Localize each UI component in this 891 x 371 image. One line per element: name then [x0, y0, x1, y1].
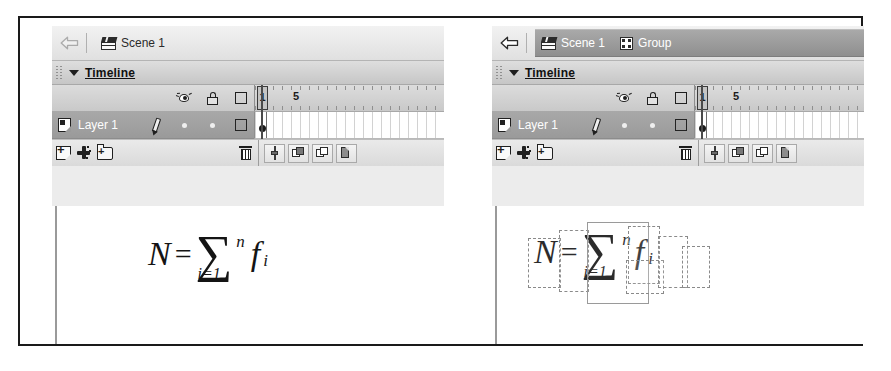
page-icon — [58, 118, 71, 132]
new-folder-icon[interactable] — [537, 147, 553, 160]
formula-left[interactable]: N = ∑ n i=1 f i — [148, 234, 268, 275]
formula-sigma-upper: n — [236, 232, 245, 252]
formula-sigma: ∑ n i=1 — [196, 234, 233, 275]
ruler-label-1: 1 — [258, 87, 267, 108]
playhead-marker[interactable]: 1 — [697, 86, 708, 110]
onion-skin-outlines-icon[interactable] — [312, 144, 333, 163]
playhead-marker[interactable]: 1 — [257, 86, 268, 110]
frame-ruler-right[interactable]: 1 5 — [694, 85, 864, 112]
onion-tools-right — [698, 140, 864, 166]
group-icon — [620, 37, 633, 50]
onion-skin-icon[interactable] — [728, 144, 749, 163]
selection-box-f — [658, 236, 688, 288]
timeline-footer-left — [52, 139, 444, 166]
layer-visible-dot[interactable] — [616, 123, 633, 128]
back-arrow-icon[interactable] — [492, 26, 526, 60]
layer-name-label[interactable]: Layer 1 — [518, 118, 588, 132]
frames-column-right: 1 5 — [694, 85, 864, 139]
layer-outline-swatch[interactable] — [672, 119, 689, 131]
timeline-title-label: Timeline — [85, 66, 135, 80]
center-frame-icon[interactable] — [704, 144, 725, 163]
frames-strip-right[interactable] — [694, 112, 864, 139]
motion-guide-icon[interactable] — [77, 146, 91, 160]
breadcrumb-divider — [526, 33, 527, 53]
lock-icon[interactable] — [644, 92, 661, 105]
stage-left-edge — [55, 206, 57, 344]
layer-column-right: Layer 1 — [492, 85, 694, 139]
formula-sigma-lower: i=1 — [198, 265, 221, 283]
eye-icon[interactable] — [616, 93, 633, 103]
drag-grip-icon[interactable] — [495, 66, 504, 79]
page-icon — [498, 118, 511, 132]
lock-icon[interactable] — [204, 92, 221, 105]
layer-area-right: Layer 1 1 5 — [492, 85, 864, 139]
stage-right[interactable]: N = ∑ n i=1 f i — [492, 206, 864, 344]
frame-ruler-left[interactable]: 1 5 — [254, 85, 444, 112]
layer-lock-dot[interactable] — [644, 123, 661, 128]
layer-lock-dot[interactable] — [204, 123, 221, 128]
breadcrumb-item-group[interactable]: Group — [614, 30, 680, 56]
timeline-title-bar-right[interactable]: Timeline — [492, 61, 864, 85]
triangle-down-icon[interactable] — [509, 70, 519, 76]
trash-icon[interactable] — [679, 146, 692, 160]
edit-multiple-frames-icon[interactable] — [336, 144, 357, 163]
clapperboard-icon — [541, 37, 556, 50]
layer-tools-right — [492, 140, 698, 166]
formula-f: f — [251, 235, 260, 273]
breadcrumb-divider — [86, 33, 87, 53]
frames-strip-left[interactable] — [254, 112, 444, 139]
onion-skin-outlines-icon[interactable] — [752, 144, 773, 163]
breadcrumb-bar-right: Scene 1 Group — [492, 26, 864, 61]
layer-tools-left — [52, 140, 258, 166]
center-frame-icon[interactable] — [264, 144, 285, 163]
layer-column-left: Layer 1 — [52, 85, 254, 139]
breadcrumb-list-left: Scene 1 — [95, 30, 444, 56]
drag-grip-icon[interactable] — [55, 66, 64, 79]
timeline-footer-right — [492, 139, 864, 166]
square-outline-icon[interactable] — [672, 92, 689, 104]
onion-skin-icon[interactable] — [288, 144, 309, 163]
layer-row-icons — [148, 118, 254, 132]
trash-icon[interactable] — [239, 146, 252, 160]
timeline-title-bar-left[interactable]: Timeline — [52, 61, 444, 85]
selection-box-f-subscript — [682, 246, 710, 288]
breadcrumb-bar-left: Scene 1 — [52, 26, 444, 61]
new-layer-icon[interactable] — [496, 146, 511, 160]
eye-icon[interactable] — [176, 93, 193, 103]
layer-row[interactable]: Layer 1 — [52, 112, 254, 139]
clapperboard-icon — [101, 37, 116, 50]
layer-visible-dot[interactable] — [176, 123, 193, 128]
layer-area-left: Layer 1 1 5 — [52, 85, 444, 139]
formula-f-subscript: i — [263, 251, 268, 275]
pencil-icon — [148, 118, 165, 132]
ruler-label-1: 1 — [698, 87, 707, 108]
formula-right[interactable]: N = ∑ n i=1 f i — [534, 232, 653, 273]
timeline-panel-right: Scene 1 Group Timeline — [492, 26, 864, 344]
new-layer-icon[interactable] — [56, 146, 71, 160]
layer-column-headers-right — [492, 85, 694, 112]
layer-column-headers-left — [52, 85, 254, 112]
formula-equals: = — [557, 235, 582, 269]
triangle-down-icon[interactable] — [69, 70, 79, 76]
onion-tools-left — [258, 140, 444, 166]
breadcrumb-item-scene[interactable]: Scene 1 — [535, 30, 614, 56]
motion-guide-icon[interactable] — [517, 146, 531, 160]
formula-sigma-upper: n — [622, 230, 631, 250]
playhead-line — [701, 85, 703, 139]
breadcrumb-item-scene[interactable]: Scene 1 — [95, 30, 174, 56]
playhead-line — [261, 85, 263, 139]
stage-left[interactable]: N = ∑ n i=1 f i — [52, 206, 444, 344]
edit-multiple-frames-icon[interactable] — [776, 144, 797, 163]
layer-row[interactable]: Layer 1 — [492, 112, 694, 139]
layer-name-label[interactable]: Layer 1 — [78, 118, 148, 132]
breadcrumb-item-label: Scene 1 — [561, 36, 605, 50]
layer-outline-swatch[interactable] — [232, 119, 249, 131]
screenshot-root: Scene 1 Timeline — [0, 0, 891, 371]
square-outline-icon[interactable] — [232, 92, 249, 104]
formula-f: f — [635, 233, 644, 271]
ruler-label-5: 5 — [293, 90, 299, 102]
new-folder-icon[interactable] — [97, 147, 113, 160]
formula-equals: = — [171, 237, 196, 271]
timeline-title-label: Timeline — [525, 66, 575, 80]
back-arrow-icon[interactable] — [52, 26, 86, 60]
